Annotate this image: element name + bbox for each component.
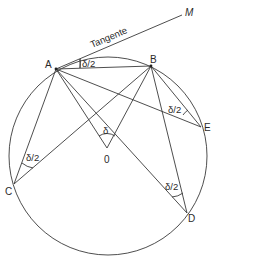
angle-label-e: δ/2 — [168, 104, 181, 115]
point-a-dot — [55, 68, 58, 71]
geometry-diagram: Tangente A B C D E 0 M δ/2 δ δ/2 δ/2 δ/2 — [0, 0, 256, 269]
line-bc — [14, 66, 151, 184]
line-bo — [107, 66, 151, 148]
angle-label-central: δ — [103, 125, 108, 136]
label-a: A — [45, 59, 52, 70]
line-ae — [56, 69, 201, 127]
label-m: M — [185, 7, 194, 18]
label-o: 0 — [104, 154, 110, 165]
tangent-line — [56, 15, 182, 69]
angle-label-c: δ/2 — [26, 152, 39, 163]
angle-arc-e — [183, 110, 188, 115]
angle-arc-c — [22, 163, 33, 168]
angle-arc-d — [172, 193, 183, 197]
label-b: B — [150, 54, 157, 65]
chord-ab — [56, 66, 151, 69]
point-b-dot — [150, 65, 153, 68]
line-ac — [14, 69, 56, 184]
angle-label-tangent: δ/2 — [82, 58, 95, 69]
angle-label-d: δ/2 — [165, 181, 178, 192]
label-e: E — [204, 122, 211, 133]
label-d: D — [188, 213, 195, 224]
label-c: C — [5, 186, 12, 197]
